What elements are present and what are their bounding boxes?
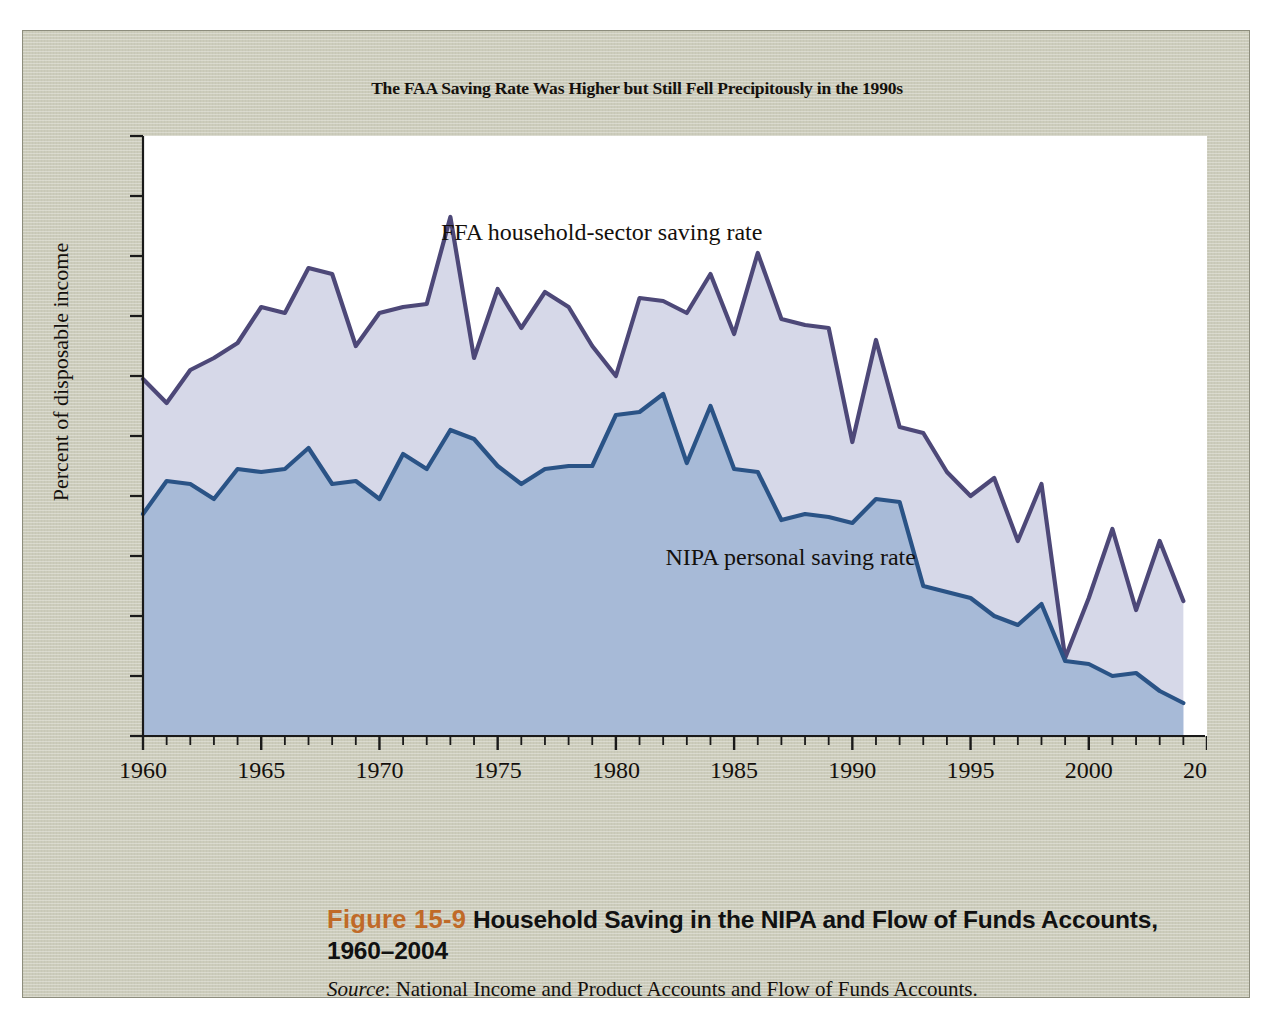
ffa-series-label: FFA household-sector saving rate <box>441 219 763 245</box>
figure-panel: The FAA Saving Rate Was Higher but Still… <box>22 30 1250 998</box>
nipa-series-label: NIPA personal saving rate <box>666 544 916 570</box>
x-tick-1960: 1960 <box>121 757 167 783</box>
caption-title: Household Saving in the NIPA and Flow of… <box>473 906 1158 933</box>
x-tick-2000: 2000 <box>1065 757 1113 783</box>
x-tick-1975: 1975 <box>474 757 522 783</box>
x-tick-2005: 2005 <box>1183 757 1207 783</box>
x-tick-1985: 1985 <box>710 757 758 783</box>
y-axis-label: Percent of disposable income <box>48 72 74 672</box>
figure-page: The FAA Saving Rate Was Higher but Still… <box>0 0 1272 1030</box>
caption-title-years: 1960–2004 <box>327 937 448 964</box>
caption-title-line: Figure 15-9 Household Saving in the NIPA… <box>327 903 1217 967</box>
x-tick-1965: 1965 <box>237 757 285 783</box>
x-tick-1970: 1970 <box>355 757 403 783</box>
chart-title: The FAA Saving Rate Was Higher but Still… <box>23 78 1251 99</box>
saving-rate-area-chart: 02468101214161820 1960196519701975198019… <box>121 106 1207 786</box>
x-tick-1995: 1995 <box>947 757 995 783</box>
figure-caption: Figure 15-9 Household Saving in the NIPA… <box>327 903 1217 1002</box>
x-tick-1990: 1990 <box>828 757 876 783</box>
caption-source: Source: National Income and Product Acco… <box>327 977 1217 1002</box>
source-prefix: Source <box>327 977 385 1001</box>
x-tick-labels: 1960196519701975198019851990199520002005 <box>121 757 1207 783</box>
x-tick-1980: 1980 <box>592 757 640 783</box>
figure-number: Figure 15-9 <box>327 905 466 933</box>
plot-area: 02468101214161820 1960196519701975198019… <box>121 106 1207 786</box>
source-text: : National Income and Product Accounts a… <box>385 977 978 1001</box>
